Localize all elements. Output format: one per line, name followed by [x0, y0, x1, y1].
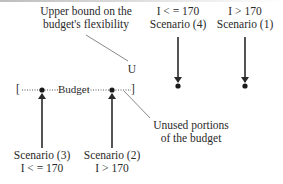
budget-scenario-diagram: Upper bound on the budget's flexibility … [0, 0, 283, 184]
budget-point-scenario-3 [39, 87, 44, 92]
scenario-4-label: I < = 170 Scenario (4) [143, 5, 213, 31]
unused-portions-line2: of the budget [146, 132, 236, 145]
upper-bound-marker: U [126, 63, 138, 76]
point-scenario-4 [175, 83, 180, 88]
budget-right-bracket: ] [130, 83, 136, 96]
budget-left-bracket: [ [14, 83, 22, 96]
scenario-1-condition: I > 170 [210, 5, 280, 18]
scenario-1-label: I > 170 Scenario (1) [210, 5, 280, 31]
scenario-2-name: Scenario (2) [77, 149, 147, 162]
upper-bound-note-line2: budget's flexibility [30, 18, 142, 31]
unused-portions-line1: Unused portions [146, 119, 236, 132]
scenario-4-condition: I < = 170 [143, 5, 213, 18]
scenario-3-condition: I < = 170 [7, 162, 77, 175]
scenario-3-label: Scenario (3) I < = 170 [7, 149, 77, 175]
scenario-3-name: Scenario (3) [7, 149, 77, 162]
budget-point-scenario-2 [109, 87, 114, 92]
scenario-2-label: Scenario (2) I > 170 [77, 149, 147, 175]
budget-label: Budget [58, 83, 88, 96]
point-scenario-1 [242, 83, 247, 88]
unused-portions-note: Unused portions of the budget [146, 119, 236, 145]
unused-portion-leader-line [124, 91, 150, 118]
upper-bound-leader-line [86, 35, 128, 61]
scenario-1-name: Scenario (1) [210, 18, 280, 31]
upper-bound-note-line1: Upper bound on the [30, 5, 142, 18]
scenario-4-name: Scenario (4) [143, 18, 213, 31]
scenario-2-condition: I > 170 [77, 162, 147, 175]
upper-bound-note: Upper bound on the budget's flexibility [30, 5, 142, 31]
